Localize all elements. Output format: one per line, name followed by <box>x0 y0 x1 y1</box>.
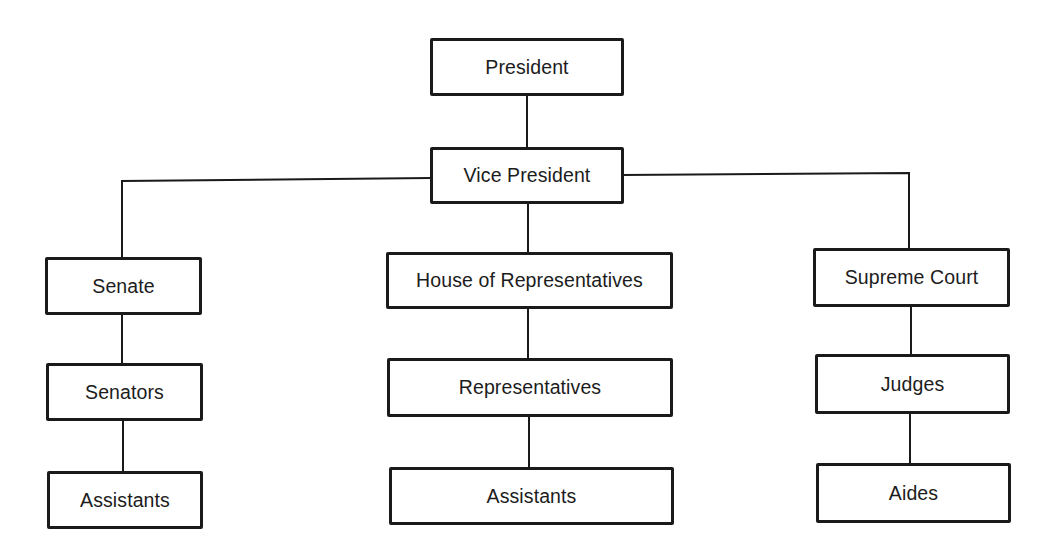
connector-vp-supreme-court <box>622 173 909 250</box>
node-label: Representatives <box>459 376 601 399</box>
node-supreme-court: Supreme Court <box>813 248 1010 307</box>
node-label: Senate <box>92 275 154 298</box>
node-label: Aides <box>889 482 938 505</box>
node-label: President <box>485 56 568 79</box>
org-chart-diagram: President Vice President Senate Senators… <box>0 0 1055 552</box>
node-representatives: Representatives <box>387 358 673 417</box>
node-label: Supreme Court <box>845 266 979 289</box>
node-vice-president: Vice President <box>430 147 624 204</box>
node-house-of-representatives: House of Representatives <box>386 252 673 309</box>
node-aides: Aides <box>816 463 1011 523</box>
node-label: Senators <box>85 381 164 404</box>
node-label: Judges <box>881 373 944 396</box>
node-label: House of Representatives <box>416 269 643 292</box>
node-senate: Senate <box>45 257 202 315</box>
node-label: Vice President <box>464 164 591 187</box>
node-house-assistants: Assistants <box>389 467 674 525</box>
node-label: Assistants <box>487 485 577 508</box>
node-senate-assistants: Assistants <box>47 471 203 529</box>
node-president: President <box>430 38 624 96</box>
node-judges: Judges <box>815 354 1010 414</box>
node-senators: Senators <box>46 363 203 421</box>
node-label: Assistants <box>80 489 170 512</box>
connector-vp-senate <box>122 178 431 259</box>
